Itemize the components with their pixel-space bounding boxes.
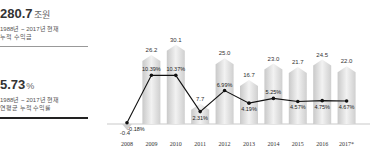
bar: 22.0 xyxy=(338,58,356,124)
line-point xyxy=(272,97,276,101)
x-tick-label: 2014 xyxy=(267,141,279,147)
bar-label: 23.0 xyxy=(268,56,280,62)
x-tick-label: 2012 xyxy=(219,141,231,147)
line-label: 10.37% xyxy=(166,66,185,72)
bar: 24.5 xyxy=(313,52,331,124)
bar-label: 16.7 xyxy=(243,72,255,78)
bar-label: 7.7 xyxy=(196,96,205,102)
line-point xyxy=(174,74,178,78)
x-tick-label: 2013 xyxy=(243,141,255,147)
x-tick-label: 2015 xyxy=(292,141,304,147)
line-label: 2.31% xyxy=(192,115,208,121)
bar: 16.7 xyxy=(240,72,258,124)
line-label: 10.39% xyxy=(142,66,161,72)
bar: 30.1 xyxy=(167,37,185,124)
line-point xyxy=(223,89,227,93)
bar-label: 26.2 xyxy=(146,47,158,53)
bar-label: 21.7 xyxy=(292,59,304,65)
bar-label: 24.5 xyxy=(316,52,328,58)
bar-label: 30.1 xyxy=(170,37,182,43)
line-point xyxy=(150,73,154,77)
bar: 21.7 xyxy=(289,59,307,124)
x-tick-label: 2009 xyxy=(145,141,157,147)
line-point xyxy=(198,110,202,114)
line-label: 4.75% xyxy=(314,104,330,110)
returns-chart: -0.4200826.2200930.120107.7201125.020121… xyxy=(0,0,387,154)
line-label: 5.25% xyxy=(266,89,282,95)
line-point xyxy=(125,121,129,125)
x-tick-label: 2011 xyxy=(194,141,206,147)
bar-label: 22.0 xyxy=(341,58,353,64)
bar-label: 25.0 xyxy=(219,50,231,56)
x-tick-label: 2008 xyxy=(121,141,133,147)
line-label: 4.19% xyxy=(241,106,257,112)
line-point xyxy=(247,101,251,105)
x-tick-label: 2016 xyxy=(316,141,328,147)
x-tick-label: 2017* xyxy=(339,141,354,147)
line-point xyxy=(296,100,300,104)
x-tick-label: 2010 xyxy=(170,141,182,147)
line-point xyxy=(320,99,324,103)
line-label: 4.67% xyxy=(339,104,355,110)
line-label: 4.57% xyxy=(290,104,306,110)
line-label: -0.18% xyxy=(127,126,145,132)
bar: 26.2 xyxy=(142,47,160,124)
line-point xyxy=(345,99,349,103)
line-label: 6.99% xyxy=(217,82,233,88)
